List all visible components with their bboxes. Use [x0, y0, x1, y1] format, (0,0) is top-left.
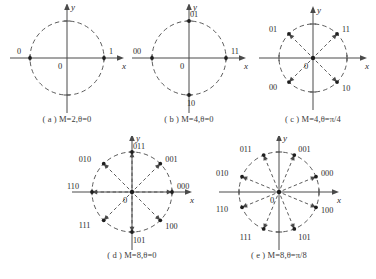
panel-d-caption: ( d ) M=8,θ=0 — [62, 250, 202, 260]
y-axis-arrow — [276, 136, 282, 141]
symbol-label-11: 11 — [231, 47, 239, 56]
symbol-label-010: 010 — [216, 169, 228, 178]
symbol-label-101: 101 — [133, 236, 145, 245]
symbol-label-1: 1 — [109, 47, 113, 56]
symbol-label-010: 010 — [79, 155, 91, 164]
ray-100 — [135, 195, 157, 217]
constellation-point-11 — [335, 32, 339, 36]
panel-e-constellation: xy0000001011010110111101100 ( e ) M=8,θ=… — [204, 136, 354, 276]
panel-b-plot: xy011010010 — [126, 4, 252, 116]
symbol-label-001: 001 — [165, 155, 177, 164]
symbol-label-10: 10 — [187, 99, 195, 108]
ray-100 — [283, 194, 312, 206]
origin-label: 0 — [270, 195, 274, 205]
x-axis-label: x — [243, 61, 248, 71]
x-axis-arrow — [332, 189, 339, 195]
constellation-point-01 — [187, 19, 191, 23]
constellation-point-011 — [262, 153, 266, 157]
origin-dot — [277, 190, 281, 194]
symbol-label-01: 01 — [269, 25, 277, 34]
panel-d-constellation: xy0000001011010110111101100 ( d ) M=8,θ=… — [62, 136, 202, 276]
x-axis-label: x — [364, 61, 369, 71]
panel-a-caption: ( a ) M=2,θ=0 — [4, 114, 130, 124]
y-axis-label: y — [70, 4, 75, 12]
constellation-point-100 — [158, 218, 162, 222]
symbol-label-101: 101 — [298, 233, 310, 242]
constellation-point-01 — [287, 32, 291, 36]
constellation-point-101 — [130, 230, 134, 234]
ray-000 — [283, 179, 312, 191]
symbol-label-110: 110 — [67, 182, 79, 191]
ray-01 — [292, 37, 310, 55]
constellation-point-000 — [170, 190, 174, 194]
x-axis-arrow — [239, 55, 246, 61]
y-axis-arrow — [64, 4, 70, 10]
ray-10 — [316, 61, 334, 79]
symbol-label-100: 100 — [321, 206, 333, 215]
constellation-point-001 — [292, 153, 296, 157]
symbol-label-00: 00 — [269, 83, 277, 92]
symbol-label-01: 01 — [190, 10, 198, 19]
constellation-point-010 — [240, 175, 244, 179]
panel-d-plot: xy0000001011010110111101100 — [62, 136, 202, 252]
origin-dot — [311, 56, 315, 60]
origin-label: 0 — [180, 61, 184, 71]
ray-011 — [266, 160, 278, 189]
panel-c-plot: xy011010010 — [250, 4, 376, 116]
symbol-label-111: 111 — [79, 221, 91, 230]
constellation-point-111 — [102, 218, 106, 222]
ray-001 — [281, 160, 293, 189]
symbol-label-00: 00 — [133, 47, 141, 56]
symbol-label-11: 11 — [342, 25, 350, 34]
origin-dot — [130, 190, 134, 194]
y-axis-label: y — [282, 136, 287, 143]
constellation-point-000 — [314, 175, 318, 179]
y-axis-arrow — [310, 6, 316, 13]
panel-c-constellation: xy011010010 ( c ) M=4,θ=π/4 — [250, 4, 376, 134]
x-axis-label: x — [189, 195, 194, 205]
symbol-label-011: 011 — [240, 145, 252, 154]
x-axis-arrow — [117, 55, 124, 61]
symbol-label-0: 0 — [17, 47, 21, 56]
constellation-point-110 — [240, 205, 244, 209]
symbol-label-001: 001 — [298, 145, 310, 154]
ray-010 — [107, 167, 129, 189]
symbol-label-111: 111 — [240, 233, 252, 242]
symbol-label-10: 10 — [342, 84, 350, 93]
ray-001 — [135, 167, 157, 189]
panel-e-plot: xy0000001011010110111101100 — [204, 136, 354, 252]
constellation-point-0 — [28, 56, 32, 60]
x-axis-arrow — [360, 55, 367, 61]
panel-a-constellation: xy010 ( a ) M=2,θ=0 — [4, 4, 130, 134]
panel-e-caption: ( e ) M=8,θ=π/8 — [204, 250, 354, 260]
symbol-label-000: 000 — [177, 182, 189, 191]
symbol-label-100: 100 — [165, 222, 177, 231]
constellation-point-10 — [335, 80, 339, 84]
panel-b-caption: ( b ) M=4,θ=0 — [126, 114, 252, 124]
constellation-point-00 — [287, 80, 291, 84]
y-axis-arrow — [129, 136, 135, 141]
constellation-point-1 — [102, 56, 106, 60]
constellation-point-111 — [262, 227, 266, 231]
ray-11 — [316, 37, 334, 55]
constellation-point-101 — [292, 227, 296, 231]
ray-101 — [281, 196, 293, 225]
constellation-figure-sheet: xy010 ( a ) M=2,θ=0 xy011010010 ( b ) M=… — [0, 0, 376, 279]
symbol-label-011: 011 — [133, 142, 145, 151]
y-axis-label: y — [316, 5, 321, 15]
constellation-point-00 — [150, 56, 154, 60]
symbol-label-000: 000 — [321, 169, 333, 178]
panel-a-plot: xy010 — [4, 4, 130, 116]
constellation-point-100 — [314, 205, 318, 209]
panel-c-caption: ( c ) M=4,θ=π/4 — [250, 114, 376, 124]
constellation-point-10 — [187, 93, 191, 97]
constellation-point-11 — [224, 56, 228, 60]
constellation-point-001 — [158, 162, 162, 166]
symbol-label-110: 110 — [216, 205, 228, 214]
panel-b-constellation: xy011010010 ( b ) M=4,θ=0 — [126, 4, 252, 134]
constellation-point-010 — [102, 162, 106, 166]
x-axis-label: x — [336, 195, 341, 205]
ray-010 — [247, 179, 276, 191]
origin-label: 0 — [58, 61, 62, 71]
constellation-point-110 — [90, 190, 94, 194]
